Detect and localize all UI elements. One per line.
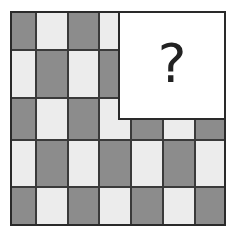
grid-cell xyxy=(10,98,36,140)
grid-cell xyxy=(131,187,163,226)
question-mark: ? xyxy=(158,37,187,91)
grid-cell xyxy=(36,11,68,50)
grid-cell xyxy=(163,187,195,226)
grid-cell xyxy=(195,140,226,187)
grid-cell xyxy=(163,140,195,187)
grid-cell xyxy=(10,50,36,98)
grid-cell xyxy=(10,187,36,226)
grid-cell xyxy=(195,187,226,226)
grid-cell xyxy=(36,98,68,140)
grid-cell xyxy=(10,11,36,50)
grid-cell xyxy=(68,140,99,187)
grid-cell xyxy=(36,140,68,187)
grid-cell xyxy=(68,187,99,226)
grid-cell xyxy=(36,50,68,98)
grid-cell xyxy=(68,98,99,140)
grid-cell xyxy=(36,187,68,226)
grid-cell xyxy=(131,140,163,187)
grid-cell xyxy=(99,187,131,226)
grid-cell xyxy=(99,140,131,187)
missing-piece-box: ? xyxy=(118,11,226,120)
grid-cell xyxy=(68,50,99,98)
grid-cell xyxy=(10,140,36,187)
grid-cell xyxy=(68,11,99,50)
